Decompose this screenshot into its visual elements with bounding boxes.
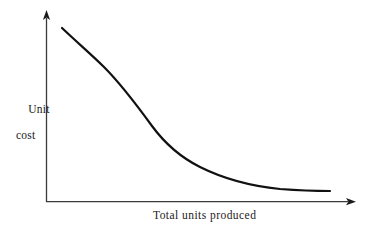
x-axis-label: Total units produced	[153, 209, 256, 222]
y-axis-label: Unit cost	[16, 90, 50, 168]
y-axis-label-line-2: cost	[16, 129, 50, 142]
y-axis-label-line-1: Unit	[28, 103, 49, 115]
unit-cost-curve-figure: Unit cost Total units produced	[0, 0, 379, 231]
unit-cost-curve	[62, 28, 330, 191]
plot-area	[0, 0, 379, 231]
